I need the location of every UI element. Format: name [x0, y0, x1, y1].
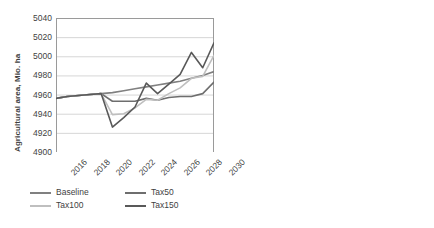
y-tick-label: 4900: [33, 147, 52, 157]
legend-label: Tax150: [151, 199, 178, 212]
x-tick-label: 2020: [114, 157, 134, 177]
y-tick-label: 5000: [33, 51, 52, 61]
y-tick-label: 4980: [33, 70, 52, 80]
legend-label: Baseline: [56, 186, 89, 199]
legend-label: Tax50: [151, 186, 174, 199]
legend-item-tax150[interactable]: Tax150: [125, 199, 220, 212]
line-chart-legend: BaselineTax50Tax100Tax150: [30, 186, 220, 212]
line-chart-plot-area: 49004920494049604980500050205040 2016201…: [56, 18, 214, 152]
legend-item-tax100[interactable]: Tax100: [30, 199, 125, 212]
y-tick-label: 4920: [33, 128, 52, 138]
x-tick-label: 2026: [181, 157, 201, 177]
legend-line-swatch-icon: [30, 205, 51, 207]
legend-row: Tax100Tax150: [30, 199, 220, 212]
y-tick-label: 5020: [33, 32, 52, 42]
figure-container: Agricultural area, Mio. ha 4900492049404…: [0, 0, 434, 228]
y-tick-label: 5040: [33, 13, 52, 23]
x-tick-label: 2022: [136, 157, 156, 177]
bar-chart-panel: Change in agricultural area Mio. ha -20-…: [220, 0, 434, 228]
x-tick-label: 2018: [91, 157, 111, 177]
legend-label: Tax100: [56, 199, 83, 212]
legend-line-swatch-icon: [125, 205, 146, 207]
left-y-axis-title: Agricultural area, Mio. ha: [13, 54, 22, 152]
y-tick-label: 4940: [33, 109, 52, 119]
legend-line-swatch-icon: [125, 192, 146, 194]
legend-line-swatch-icon: [30, 192, 51, 194]
y-tick-label: 4960: [33, 90, 52, 100]
legend-item-tax50[interactable]: Tax50: [125, 186, 220, 199]
line-chart-svg: [56, 18, 214, 152]
x-tick-label: 2024: [159, 157, 179, 177]
legend-row: BaselineTax50: [30, 186, 220, 199]
legend-item-baseline[interactable]: Baseline: [30, 186, 125, 199]
x-tick-label: 2016: [69, 157, 89, 177]
line-series-tax50: [56, 82, 214, 101]
line-chart-panel: Agricultural area, Mio. ha 4900492049404…: [0, 0, 220, 228]
